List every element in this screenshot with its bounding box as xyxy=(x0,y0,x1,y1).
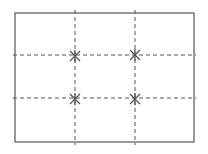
vertical-third-lines xyxy=(75,10,135,145)
asterisk-icon xyxy=(130,49,140,61)
intersection-markers xyxy=(70,49,140,105)
asterisk-icon xyxy=(130,93,140,105)
frame-border xyxy=(15,13,194,142)
rule-of-thirds-diagram xyxy=(0,0,208,154)
asterisk-icon xyxy=(70,50,80,62)
horizontal-third-lines xyxy=(13,55,196,98)
asterisk-icon xyxy=(70,93,80,105)
